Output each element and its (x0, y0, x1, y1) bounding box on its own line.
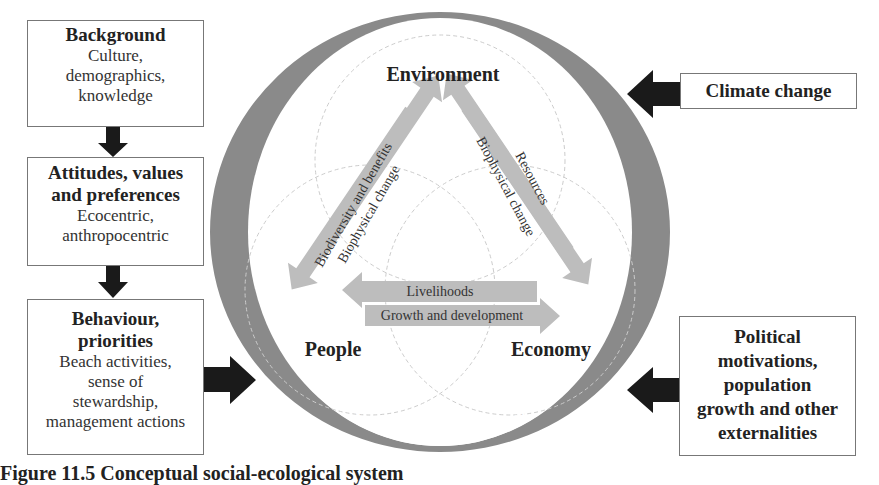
political-line: population (680, 373, 855, 397)
behaviour-title: Behaviour, (28, 308, 203, 330)
arrow-right-behaviour-icon (203, 356, 256, 404)
behaviour-line: management actions (28, 412, 203, 432)
node-economy: Economy (511, 338, 591, 361)
political-line: externalities (680, 421, 855, 445)
behaviour-line: Beach activities, (28, 352, 203, 372)
background-line: knowledge (28, 86, 203, 106)
behaviour-line: sense of (28, 372, 203, 392)
behaviour-box: Behaviour, priorities Beach activities, … (27, 299, 204, 455)
node-people: People (305, 338, 362, 361)
attitudes-title: and preferences (28, 184, 203, 206)
political-line: Political (680, 325, 855, 349)
attitudes-box: Attitudes, values and preferences Ecocen… (27, 157, 204, 266)
climate-change-box: Climate change (680, 73, 857, 109)
background-box: Background Culture, demographics, knowle… (27, 20, 204, 127)
attitudes-title: Attitudes, values (28, 162, 203, 184)
background-line: demographics, (28, 66, 203, 86)
political-line: motivations, (680, 349, 855, 373)
political-line: growth and other (680, 397, 855, 421)
climate-change-title: Climate change (681, 80, 856, 102)
node-environment: Environment (387, 63, 500, 85)
arrow-left-political-icon (627, 367, 680, 413)
background-title: Background (28, 24, 203, 46)
arrow-down-1-icon (98, 127, 128, 157)
attitudes-line: anthropocentric (28, 226, 203, 246)
label-growth: Growth and development (381, 308, 523, 323)
arrow-down-2-icon (98, 266, 128, 298)
figure-caption: Figure 11.5 Conceptual social-ecological… (0, 462, 403, 485)
label-livelihoods: Livelihoods (407, 284, 474, 299)
background-line: Culture, (28, 46, 203, 66)
behaviour-line: stewardship, (28, 392, 203, 412)
attitudes-line: Ecocentric, (28, 206, 203, 226)
political-box: Political motivations, population growth… (679, 316, 856, 456)
behaviour-title: priorities (28, 330, 203, 352)
arrow-left-climate-icon (627, 70, 680, 118)
